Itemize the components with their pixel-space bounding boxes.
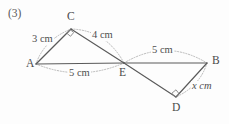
vertex-label-B: B	[212, 55, 220, 67]
problem-number: (3)	[8, 8, 21, 20]
measure-label-EB: 5 cm	[151, 45, 174, 56]
figure-page: (3) A C E B D 3 cm 4 cm 5 cm 5 cm x cm	[0, 0, 229, 124]
vertex-label-A: A	[26, 58, 34, 70]
measure-label-CE: 4 cm	[91, 30, 114, 41]
vertex-label-E: E	[119, 67, 126, 79]
edge-A-E	[36, 63, 124, 64]
measure-label-AE: 5 cm	[68, 68, 91, 79]
vertex-label-D: D	[172, 102, 180, 114]
vertex-label-C: C	[67, 11, 75, 23]
edge-E-D	[124, 63, 176, 97]
measure-label-AC: 3 cm	[31, 34, 54, 45]
measure-label-BD: x cm	[191, 81, 213, 92]
figure-edges	[36, 29, 207, 97]
geometry-figure	[0, 0, 229, 124]
